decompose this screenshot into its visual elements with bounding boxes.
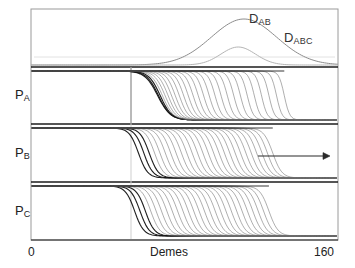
wave-front-pc-16 (31, 186, 336, 236)
wave-front-pc-3 (31, 186, 336, 236)
axis-tick-max: 160 (314, 246, 334, 258)
wave-front-pc-11 (31, 186, 336, 236)
panel-label-pc: PC (15, 204, 30, 217)
wave-front-pa-9 (31, 71, 336, 120)
axis-label-x: Demes (150, 246, 188, 258)
wave-front-pc-24 (31, 186, 336, 236)
wave-front-pc-25 (31, 186, 336, 236)
wave-front-pc-13 (31, 186, 336, 236)
wave-front-pc-23 (31, 186, 336, 236)
axis-tick-min: 0 (28, 246, 35, 258)
wave-front-pc-4 (31, 186, 336, 236)
wave-front-pc-19 (31, 186, 336, 236)
wave-front-pc-12 (31, 186, 336, 236)
wave-front-pc-2 (31, 186, 336, 236)
wave-front-pc-8 (31, 186, 336, 236)
wave-front-pc-21 (31, 186, 336, 236)
wave-front-pc-15 (31, 186, 336, 236)
wave-front-pc-7 (31, 186, 336, 236)
wave-front-pc-9 (31, 186, 336, 236)
wave-front-pc-18 (31, 186, 336, 236)
wave-front-pc-22 (31, 186, 336, 236)
curve-label-dab: DAB (249, 12, 271, 25)
direction-arrow-head (323, 153, 330, 160)
wave-front-pc-20 (31, 186, 336, 236)
panel-label-pb: PB (15, 146, 30, 159)
figure-container: DAB DABC PA PB PC 0 Demes 160 (0, 0, 355, 268)
wave-front-pc-1 (31, 186, 336, 236)
wave-front-pc-0 (31, 186, 336, 236)
wave-front-pc-6 (31, 186, 336, 236)
wave-front-pc-17 (31, 186, 336, 236)
panel-label-pa: PA (15, 88, 30, 101)
wave-front-pc-10 (31, 186, 336, 236)
wave-front-pb-7 (31, 128, 336, 178)
curve-label-dabc: DABC (284, 31, 313, 44)
wave-front-pc-5 (31, 186, 336, 236)
wave-front-pc-14 (31, 186, 336, 236)
